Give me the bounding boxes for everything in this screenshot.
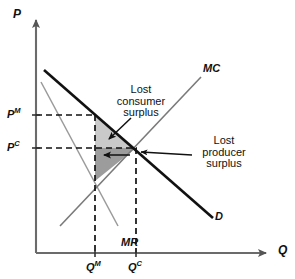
x-tick-qm-base: Q (86, 261, 95, 273)
y-tick-pm-sup: M (14, 106, 20, 115)
y-tick-pc: PC (7, 140, 20, 153)
y-tick-pm: PM (7, 107, 21, 120)
y-axis-label: P (13, 8, 21, 21)
lost-producer-surplus-line-3: surplus (192, 158, 256, 170)
x-tick-qc: QC (128, 260, 142, 273)
lost-consumer-surplus-line-3: surplus (110, 107, 172, 119)
lost-consumer-surplus-line-1: Lost (110, 84, 172, 96)
demand-label: D (215, 211, 223, 223)
lost-producer-surplus-line-1: Lost (192, 135, 256, 147)
y-tick-pc-sup: C (14, 139, 19, 148)
x-tick-qm: QM (86, 260, 101, 273)
marginal-revenue-label: MR (121, 237, 138, 249)
lost-producer-surplus-annotation: Lost producer surplus (192, 135, 256, 170)
x-tick-qc-base: Q (128, 261, 137, 273)
lost-producer-surplus-leader (141, 152, 192, 155)
lost-consumer-surplus-annotation: Lost consumer surplus (110, 84, 172, 119)
x-tick-qm-sup: M (95, 259, 101, 268)
x-axis-label: Q (278, 244, 287, 257)
marginal-cost-label: MC (203, 63, 220, 75)
x-tick-qc-sup: C (137, 259, 142, 268)
deadweight-loss-figure: P Q PM PC QM QC MC MR D Lost consumer su… (0, 0, 295, 279)
